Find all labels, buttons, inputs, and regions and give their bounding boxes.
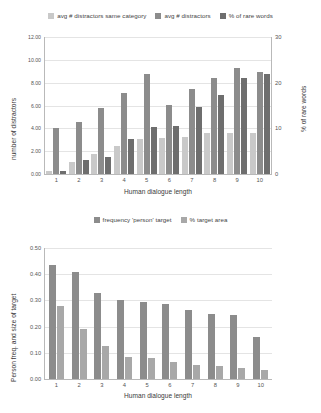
x-tick-label: 7 xyxy=(191,382,194,388)
bar xyxy=(208,314,215,380)
bar xyxy=(94,293,101,379)
x-tick-label: 6 xyxy=(168,177,171,183)
bar xyxy=(72,272,79,379)
bar xyxy=(257,72,263,174)
y2-tick-label: 20 xyxy=(275,80,295,86)
x-tick-label: 2 xyxy=(77,177,80,183)
bar-group xyxy=(249,248,272,379)
bar-group xyxy=(90,248,113,379)
bar xyxy=(162,304,169,379)
x-tick-label: 6 xyxy=(168,382,171,388)
bar-group xyxy=(181,37,204,174)
y-tick-label: 0.20 xyxy=(13,324,41,330)
y-tick-label: 0.50 xyxy=(13,245,41,251)
bar-group xyxy=(113,37,136,174)
y-axis-label-top: number of distractors xyxy=(10,98,17,160)
y-tick-label: 0.00 xyxy=(13,171,41,177)
legend-top: avg # distractors same category avg # di… xyxy=(0,12,321,19)
y-tick-label: 0.10 xyxy=(13,350,41,356)
bar xyxy=(91,154,97,174)
bar xyxy=(250,133,256,174)
bar xyxy=(230,315,237,379)
legend-label-series2: avg # distractors xyxy=(164,12,210,19)
x-tick-label: 3 xyxy=(100,177,103,183)
bar xyxy=(46,171,52,174)
x-tick-label: 8 xyxy=(214,382,217,388)
x-tick-label: 4 xyxy=(122,177,125,183)
bar xyxy=(49,265,56,379)
y2-axis-label-top: % of rare words xyxy=(300,86,307,132)
plot-area-bottom: 0.000.100.200.300.400.5012345678910 xyxy=(44,248,272,380)
bar-group xyxy=(248,37,271,174)
bar-group xyxy=(159,248,182,379)
bar xyxy=(105,157,111,174)
bar xyxy=(227,133,233,174)
x-tick-label: 10 xyxy=(256,177,262,183)
bar-group xyxy=(68,248,91,379)
bar xyxy=(193,365,200,379)
bar xyxy=(196,107,202,174)
x-tick-label: 7 xyxy=(190,177,193,183)
x-tick-label: 9 xyxy=(235,177,238,183)
x-tick-label: 9 xyxy=(236,382,239,388)
bar xyxy=(57,306,64,379)
bar xyxy=(185,310,192,379)
bar-group xyxy=(158,37,181,174)
x-tick-label: 5 xyxy=(145,177,148,183)
bar-group xyxy=(227,248,250,379)
bar xyxy=(216,366,223,379)
y-tick-label: 10.00 xyxy=(13,57,41,63)
legend-label-series3: % of rare words xyxy=(229,12,273,19)
bar-group xyxy=(181,248,204,379)
legend-label-bseries2: % target area xyxy=(190,216,228,223)
bar xyxy=(53,128,59,174)
y-tick-label: 12.00 xyxy=(13,34,41,40)
y-tick-label: 0.30 xyxy=(13,297,41,303)
bar xyxy=(234,68,240,174)
legend-swatch-series3 xyxy=(220,13,226,19)
bar xyxy=(140,302,147,379)
bar xyxy=(189,89,195,174)
y-tick-label: 6.00 xyxy=(13,103,41,109)
bar xyxy=(121,93,127,174)
bar xyxy=(117,300,124,379)
bar xyxy=(102,346,109,379)
bar-group xyxy=(45,248,68,379)
bar-group xyxy=(113,248,136,379)
y-tick-label: 8.00 xyxy=(13,80,41,86)
x-axis-label-bottom: Human dialogue length xyxy=(44,392,272,399)
bar xyxy=(218,95,224,174)
y-axis-label-bottom: Person freq. and size of target xyxy=(10,294,17,382)
bar xyxy=(98,108,104,174)
legend-item-frequency-person-target: frequency 'person' target xyxy=(94,216,172,223)
bar xyxy=(80,329,87,379)
y-tick-label: 0.00 xyxy=(13,376,41,382)
bar-group xyxy=(204,248,227,379)
legend-swatch-bseries1 xyxy=(94,217,100,223)
bar xyxy=(148,358,155,379)
bar xyxy=(170,362,177,379)
bar xyxy=(173,126,179,174)
bar xyxy=(69,162,75,174)
bar xyxy=(253,337,260,379)
x-tick-label: 2 xyxy=(77,382,80,388)
legend-bottom: frequency 'person' target % target area xyxy=(0,216,321,223)
bar-group xyxy=(203,37,226,174)
legend-swatch-series2 xyxy=(155,13,161,19)
bar xyxy=(128,139,134,174)
legend-swatch-series1 xyxy=(48,13,54,19)
bar xyxy=(211,78,217,174)
bar xyxy=(144,74,150,174)
bar xyxy=(241,78,247,174)
bar-group xyxy=(226,37,249,174)
bar-group xyxy=(136,248,159,379)
y-tick-label: 4.00 xyxy=(13,125,41,131)
bar xyxy=(76,122,82,174)
x-tick-label: 10 xyxy=(257,382,263,388)
bar-group xyxy=(135,37,158,174)
bar xyxy=(151,127,157,174)
y2-tick-label: 30 xyxy=(275,34,295,40)
x-tick-label: 3 xyxy=(100,382,103,388)
bar xyxy=(238,368,245,379)
legend-label-bseries1: frequency 'person' target xyxy=(103,216,172,223)
